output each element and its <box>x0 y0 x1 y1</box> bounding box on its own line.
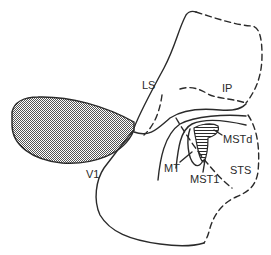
label-mstd: MSTd <box>223 133 252 145</box>
mst-region <box>194 124 218 162</box>
label-mt: MT <box>164 162 180 174</box>
label-ls: LS <box>142 79 155 91</box>
label-sts: STS <box>230 164 251 176</box>
label-v1: V1 <box>86 168 99 180</box>
label-ip: IP <box>222 82 232 94</box>
intraparietal-sulcus-line <box>180 88 246 103</box>
label-mstl: MST1 <box>190 173 219 185</box>
visual-cortex-diagram: LS IP V1 MT MSTd MST1 STS <box>0 0 271 255</box>
